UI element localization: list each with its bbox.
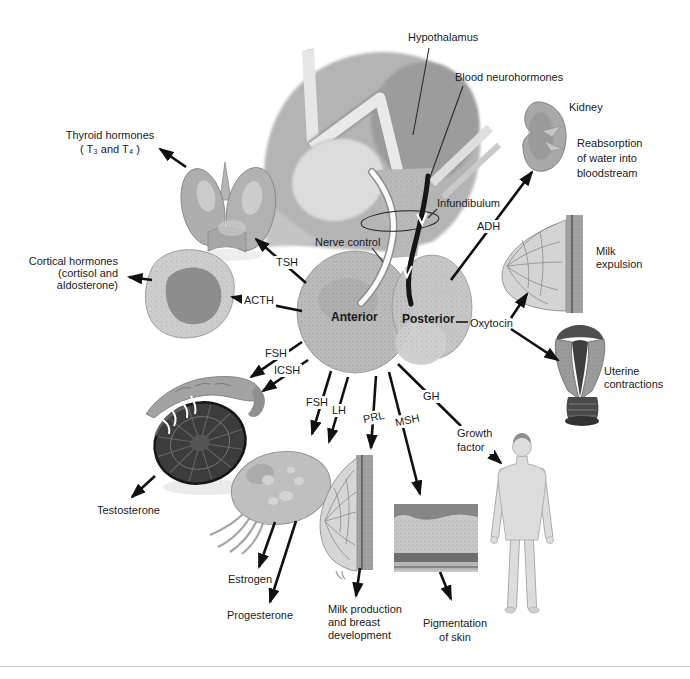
acth-label: ACTH: [242, 294, 276, 307]
kidney-label: Kidney: [569, 101, 603, 114]
bottom-rule: [0, 666, 690, 667]
growth-factor-label: Growth factor: [455, 426, 494, 454]
fsh-ovary-label: FSH: [304, 396, 330, 409]
label-line: expulsion: [596, 258, 642, 271]
arrow-oxytocin-uterus: [511, 329, 558, 360]
human-figure: [491, 433, 554, 613]
label-line: (cortisol and: [26, 267, 118, 279]
estrogen-label: Estrogen: [228, 573, 272, 586]
label-line: Pigmentation: [418, 616, 492, 630]
oxytocin-label: Oxytocin: [470, 317, 513, 330]
adrenal-gland: [145, 250, 234, 338]
arrow-milk-production: [356, 568, 360, 596]
arrow-thyroid-to-label: [160, 149, 186, 167]
uterine-contractions-label: Uterine contractions: [604, 365, 663, 391]
progesterone-label: Progesterone: [227, 609, 293, 622]
anterior-lobe-label: Anterior: [331, 311, 378, 324]
arrow-msh: [389, 372, 420, 494]
adh-label: ADH: [475, 220, 502, 233]
label-line: bloodstream: [577, 166, 642, 181]
diagram-canvas: Hypothalamus Blood neurohormones Kidney …: [0, 0, 690, 679]
gh-label: GH: [421, 390, 442, 403]
label-line: Uterine: [604, 365, 663, 378]
infundibulum-label: Infundibulum: [437, 197, 500, 210]
milk-production-label: Milk production and breast development: [328, 603, 402, 642]
arrow-progesterone: [270, 521, 296, 602]
label-line: contractions: [604, 378, 663, 391]
pigmentation-label: Pigmentation of skin: [418, 616, 492, 644]
uterus-organ: [555, 325, 605, 426]
label-line: development: [328, 629, 402, 642]
label-line: Growth: [457, 426, 492, 440]
hypothalamus-label: Hypothalamus: [408, 31, 478, 44]
lh-label: LH: [330, 404, 348, 417]
blood-neurohormones-label: Blood neurohormones: [455, 71, 563, 84]
milk-expulsion-label: Milk expulsion: [596, 245, 642, 271]
posterior-lobe-label: Posterior: [402, 313, 455, 326]
tsh-label: TSH: [274, 256, 300, 269]
nerve-control-label: Nerve control: [315, 236, 380, 249]
icsh-label: ICSH: [272, 364, 302, 377]
label-line: aldosterone): [26, 279, 118, 291]
label-line: Milk production: [328, 603, 402, 616]
label-line: ( T₃ and T₄ ): [64, 142, 156, 156]
arrow-testosterone: [132, 476, 155, 497]
skin-section: [394, 504, 478, 572]
arrow-pigmentation: [440, 572, 451, 599]
label-line: Milk: [596, 245, 642, 258]
label-line: of skin: [418, 630, 492, 644]
label-line: of water into: [577, 151, 642, 166]
kidney-effect-label: Reabsorption of water into bloodstream: [577, 136, 642, 181]
thyroid-hormones-label: Thyroid hormones ( T₃ and T₄ ): [64, 128, 156, 156]
label-line: and breast: [328, 616, 402, 629]
testosterone-label: Testosterone: [97, 504, 160, 517]
label-line: Thyroid hormones: [64, 128, 156, 142]
kidney-organ: [523, 102, 566, 171]
adrenal-hormones-label: Cortical hormones (cortisol and aldoster…: [26, 255, 118, 291]
label-line: Cortical hormones: [26, 255, 118, 267]
label-line: Reabsorption: [577, 136, 642, 151]
fsh-testis-label: FSH: [263, 347, 289, 360]
label-line: factor: [457, 440, 492, 454]
breast-milk-expulsion-organ: [502, 215, 583, 313]
